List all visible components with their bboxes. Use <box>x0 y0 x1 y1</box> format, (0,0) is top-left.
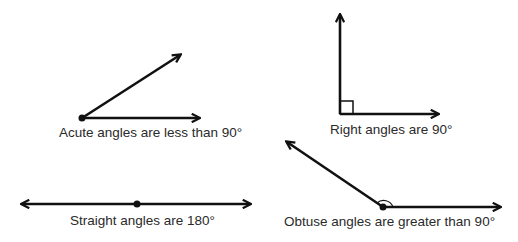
angle-diagram <box>0 0 518 242</box>
obtuse-label: Obtuse angles are greater than 90° <box>284 214 495 229</box>
acute-vertex <box>79 115 86 122</box>
right-label: Right angles are 90° <box>330 122 452 137</box>
straight-angle <box>22 201 250 208</box>
straight-vertex <box>134 201 141 208</box>
acute-angle <box>79 55 200 122</box>
right-angle <box>340 15 438 114</box>
obtuse-angle <box>287 142 500 211</box>
straight-label: Straight angles are 180° <box>70 213 215 228</box>
acute-label: Acute angles are less than 90° <box>59 125 242 140</box>
obtuse-vertex <box>380 204 387 211</box>
right-angle-marker <box>340 101 353 114</box>
obtuse-ray-upper <box>287 142 383 207</box>
acute-ray-upper <box>82 55 180 118</box>
